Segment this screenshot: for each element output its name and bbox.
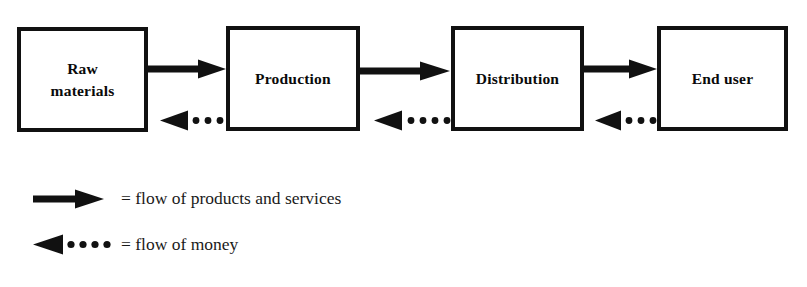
node-production-label: Production: [251, 68, 335, 90]
node-end-user[interactable]: End user: [657, 26, 788, 131]
connector-flow-products-distribution-to-enduser: [584, 59, 659, 79]
legend-label-flow-of-products-and-services: = flow of products and services: [121, 188, 341, 209]
node-raw-materials-label: Raw materials: [47, 58, 119, 102]
connector-flow-products-raw-to-production: [148, 59, 228, 79]
connector-flow-products-production-to-distribution: [360, 61, 452, 81]
connector-flow-money-distribution-to-production: [374, 110, 452, 131]
legend-item-flow-of-money: = flow of money: [33, 234, 238, 255]
node-distribution-label: Distribution: [472, 68, 563, 90]
node-raw-materials[interactable]: Raw materials: [17, 27, 148, 132]
dotted-arrow-left-icon: [33, 234, 104, 255]
node-distribution[interactable]: Distribution: [451, 26, 584, 131]
node-end-user-label: End user: [688, 68, 757, 90]
node-production[interactable]: Production: [226, 26, 360, 131]
legend-item-flow-of-products-and-services: = flow of products and services: [33, 188, 341, 209]
connector-flow-money-production-to-raw: [160, 110, 228, 131]
connector-flow-money-enduser-to-distribution: [595, 110, 659, 131]
solid-arrow-right-icon: [33, 189, 106, 209]
legend-label-flow-of-money: = flow of money: [121, 234, 238, 255]
supply-chain-diagram: Raw materials Production Distribution En…: [0, 0, 807, 287]
